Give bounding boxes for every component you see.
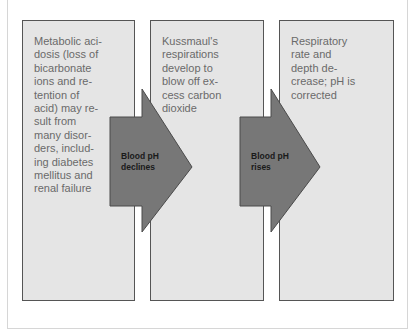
arrow-label-blood-ph-rises: Blood pH rises [251, 151, 289, 173]
right-arrow-icon [0, 0, 412, 334]
